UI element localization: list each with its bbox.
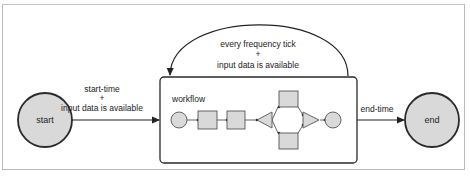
- start-edge-label-line2: +: [100, 93, 105, 103]
- inner-start-circle: [171, 112, 187, 128]
- inner-task-bottom: [279, 133, 298, 149]
- inner-task-1: [198, 111, 217, 129]
- start-node: start: [18, 93, 72, 147]
- inner-task-2: [227, 111, 245, 129]
- workflow-to-end-edge: end-time: [357, 104, 404, 120]
- end-label: end: [424, 115, 439, 125]
- workflow-node: workflow: [160, 77, 357, 163]
- inner-end-circle: [325, 112, 341, 128]
- loop-label-line2: +: [256, 49, 261, 59]
- loop-edge: every frequency tick + input data is ava…: [170, 25, 348, 76]
- loop-label-line1: every frequency tick: [220, 39, 296, 49]
- end-edge-label: end-time: [360, 104, 393, 114]
- loop-label-line3: input data is available: [217, 60, 299, 70]
- workflow-label: workflow: [171, 94, 206, 104]
- start-to-workflow-edge: start-time + input data is available: [61, 84, 159, 120]
- start-edge-label-line3: input data is available: [61, 103, 143, 113]
- workflow-diagram: start start-time + input data is availab…: [0, 0, 470, 176]
- end-node: end: [405, 93, 459, 147]
- inner-task-top: [279, 91, 298, 107]
- start-label: start: [36, 115, 54, 125]
